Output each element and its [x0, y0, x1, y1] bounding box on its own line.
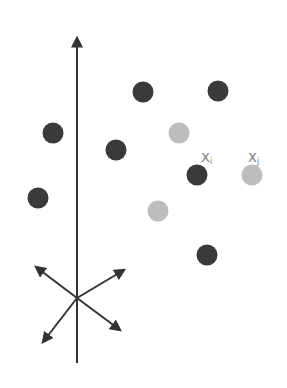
direction-arrows: [36, 267, 124, 342]
label-xj: Xj: [248, 150, 259, 166]
arrow-up-right: [77, 270, 124, 298]
arrow-down-right: [77, 298, 120, 330]
diagram-canvas: Xi Xj: [0, 0, 287, 388]
point-dark: [133, 82, 154, 103]
point-light: [169, 123, 190, 144]
point-dark: [28, 188, 49, 209]
label-xi: Xi: [201, 150, 212, 166]
point-dark: [43, 123, 64, 144]
point-xi: [187, 165, 208, 186]
point-light: [148, 201, 169, 222]
arrow-down-left: [43, 298, 77, 342]
point-dark: [106, 140, 127, 161]
points: [28, 81, 263, 266]
point-xj: [242, 165, 263, 186]
arrow-up-left: [36, 267, 77, 298]
point-dark: [208, 81, 229, 102]
point-dark: [197, 245, 218, 266]
